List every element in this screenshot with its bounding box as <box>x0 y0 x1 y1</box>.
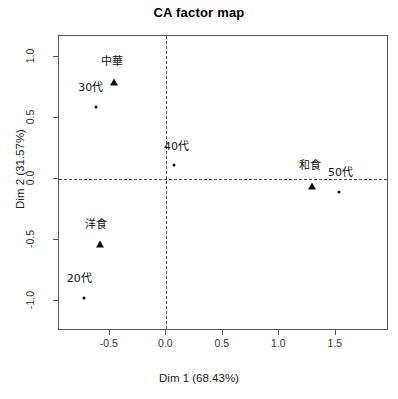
y-axis-tick-label: -1.0 <box>24 290 36 308</box>
point-label: 50代 <box>328 163 353 179</box>
category-marker <box>308 182 316 189</box>
age-group-marker <box>82 297 85 300</box>
x-axis-tick-label: -0.5 <box>100 337 118 349</box>
point-label: 20代 <box>67 269 92 285</box>
category-marker <box>110 79 118 86</box>
x-axis-tick-label: 0.5 <box>215 337 230 349</box>
y-axis-tick <box>53 56 58 57</box>
x-axis-title: Dim 1 (68.43%) <box>0 372 398 384</box>
point-label: 中華 <box>101 52 123 68</box>
chart-title: CA factor map <box>0 5 398 20</box>
x-axis-tick <box>165 330 166 335</box>
age-group-marker <box>95 105 98 108</box>
age-group-marker <box>338 191 341 194</box>
point-label: 和食 <box>299 156 321 172</box>
x-axis-tick-label: 0.0 <box>158 337 173 349</box>
y-axis-tick <box>53 300 58 301</box>
ca-factor-map-plot: CA factor map 中華和食洋食30代40代50代20代 -0.50.0… <box>0 0 398 399</box>
vertical-zero-axis-line <box>166 36 167 329</box>
y-axis-title: Dim 2 (31.57%) <box>14 89 26 249</box>
plot-area: 中華和食洋食30代40代50代20代 <box>58 35 388 330</box>
x-axis-tick-label: 1.5 <box>328 337 343 349</box>
x-axis-tick <box>109 330 110 335</box>
point-label: 30代 <box>78 78 103 94</box>
y-axis-tick <box>53 239 58 240</box>
point-label: 40代 <box>164 137 189 153</box>
age-group-marker <box>173 164 176 167</box>
x-axis-tick <box>222 330 223 335</box>
x-axis-tick-label: 1.0 <box>271 337 286 349</box>
x-axis-tick <box>278 330 279 335</box>
category-marker <box>96 241 104 248</box>
y-axis-tick <box>53 117 58 118</box>
y-axis-tick-label: 1.0 <box>24 48 36 63</box>
y-axis-tick <box>53 178 58 179</box>
x-axis-tick <box>335 330 336 335</box>
point-label: 洋食 <box>85 215 107 231</box>
